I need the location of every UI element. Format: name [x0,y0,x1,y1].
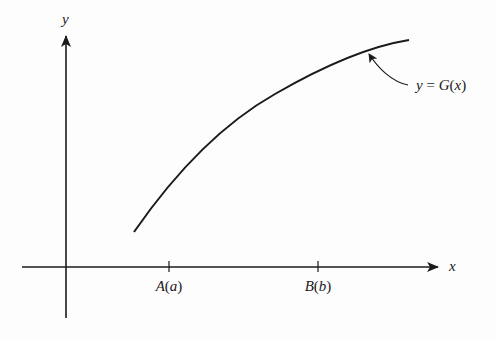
tick-b-label: B(b) [305,278,332,295]
tick-a-label: A(a) [155,278,183,295]
curve-g [134,40,409,232]
curve-label: y = G(x) [414,77,466,94]
annotation-arrow [369,54,408,85]
graph-canvas: y x A(a) B(b) y = G(x) [0,0,496,338]
x-axis-label: x [448,258,456,274]
y-axis-label: y [60,11,69,27]
function-graph-figure: y x A(a) B(b) y = G(x) [0,0,496,338]
